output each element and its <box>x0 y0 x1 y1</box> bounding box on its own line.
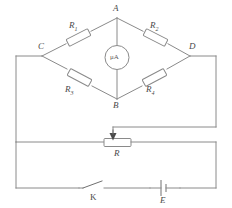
node-label-b: B <box>113 101 119 110</box>
resistor-label-r3: R3 <box>65 85 74 96</box>
microammeter-label: μA <box>110 54 119 61</box>
rheostat-body <box>104 139 131 147</box>
node-label-c: C <box>38 42 44 51</box>
node-label-d: D <box>189 42 196 51</box>
switch-k-symbol <box>79 181 150 188</box>
battery-e-symbol <box>150 180 180 196</box>
resistor-label-r1: R1 <box>69 21 78 32</box>
left-supply-wire <box>16 56 104 142</box>
resistor-label-r4: R4 <box>146 85 155 96</box>
bridge-arm-upper-left <box>42 18 117 56</box>
resistor-label-r2: R2 <box>150 21 159 32</box>
rheostat-label: R <box>114 149 120 158</box>
node-label-a: A <box>113 4 119 13</box>
battery-label-e: E <box>160 196 166 205</box>
left-battery-wire <box>16 142 79 188</box>
right-supply-wire <box>113 56 216 136</box>
circuit-diagram: A B C D R1 R2 R3 R4 μA R K E <box>0 0 232 208</box>
switch-label-k: K <box>90 193 97 202</box>
rheostat-right-wire <box>131 142 216 188</box>
